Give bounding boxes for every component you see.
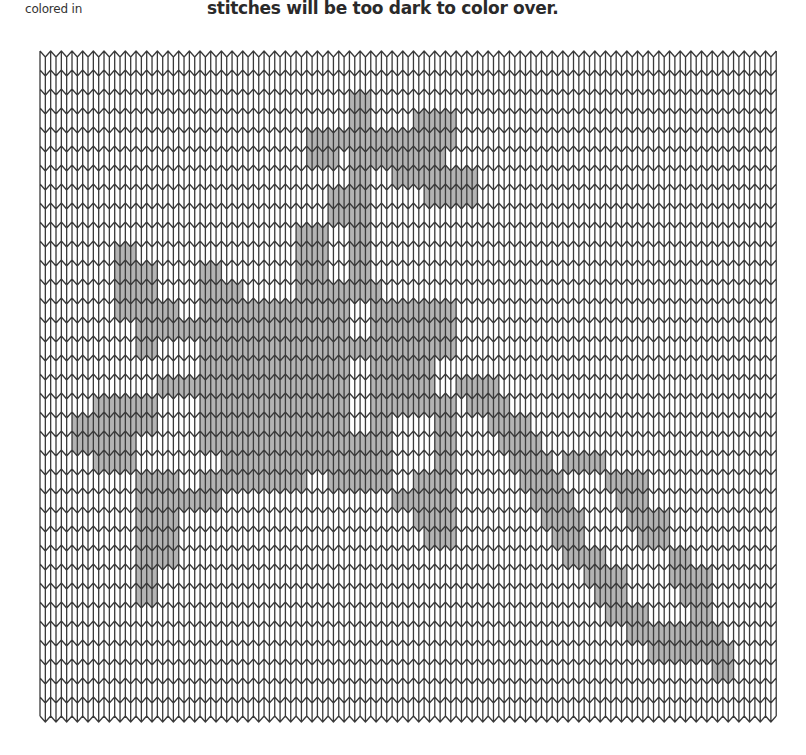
stitch-grid-lines bbox=[40, 51, 776, 722]
knitting-chart bbox=[0, 0, 806, 755]
